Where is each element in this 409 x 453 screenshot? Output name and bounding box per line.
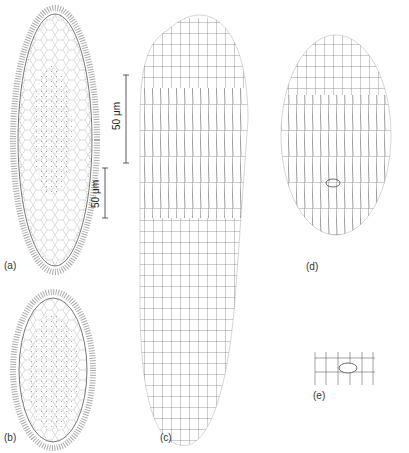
figure-canvas xyxy=(0,0,409,453)
panel-label-c: (c) xyxy=(160,432,172,443)
panel-c-drawing xyxy=(140,15,250,448)
panel-label-e: (e) xyxy=(313,390,325,401)
scale-bar-2-label: 50 μm xyxy=(90,180,101,208)
panel-label-d: (d) xyxy=(306,261,318,272)
panel-e-drawing xyxy=(315,352,375,385)
panel-a-drawing xyxy=(13,8,97,272)
scale-bar-1-label: 50 μm xyxy=(111,102,122,130)
panel-d-drawing xyxy=(280,35,392,235)
panel-label-b: (b) xyxy=(4,432,16,443)
panel-b-drawing xyxy=(13,292,93,448)
panel-label-a: (a) xyxy=(4,260,16,271)
